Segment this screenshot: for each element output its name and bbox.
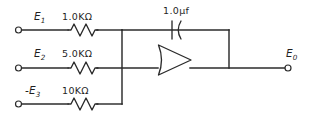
label-output-e0-symbol: E	[286, 47, 293, 59]
label-source-e1: E1	[34, 11, 46, 24]
label-source-e2: E2	[34, 48, 46, 61]
input-terminal-e2[interactable]	[16, 65, 22, 71]
label-source-e3-subscript: 3	[36, 90, 41, 99]
label-capacitor-c1: 1.0μf	[163, 6, 189, 16]
label-source-e1-subscript: 1	[41, 16, 46, 25]
label-output-e0: E0	[286, 48, 298, 61]
label-resistor-r2: 5.0KΩ	[62, 49, 92, 59]
label-source-e3: -E3	[25, 85, 41, 98]
circuit-schematic-svg	[0, 0, 312, 119]
amplifier-triangle	[159, 45, 192, 75]
resistor-r1-zigzag	[68, 24, 98, 36]
circuit-diagram: E1 E2 -E3 E0 1.0KΩ 5.0KΩ 10KΩ 1.0μf	[0, 0, 312, 119]
input-terminal-e3[interactable]	[16, 101, 22, 107]
label-source-e3-symbol: E	[29, 84, 36, 96]
input-terminal-e1[interactable]	[16, 27, 22, 33]
label-source-e2-subscript: 2	[41, 53, 46, 62]
resistor-r3-zigzag	[68, 98, 98, 110]
resistor-r2-zigzag	[68, 62, 98, 74]
label-source-e2-symbol: E	[34, 47, 41, 59]
label-resistor-r3: 10KΩ	[62, 86, 89, 96]
label-output-e0-subscript: 0	[293, 53, 298, 62]
label-resistor-r1: 1.0KΩ	[62, 12, 92, 22]
label-source-e1-symbol: E	[34, 10, 41, 22]
output-terminal-e0[interactable]	[285, 65, 291, 71]
